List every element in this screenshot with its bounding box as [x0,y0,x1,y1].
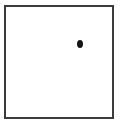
rectangular-boundary [4,5,114,119]
figure-canvas [0,0,122,127]
plotted-point [77,40,83,48]
